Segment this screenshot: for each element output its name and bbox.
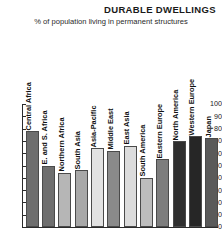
bar-category-label: Western Europe [188,78,195,135]
bar[interactable]: E. and S. Africa [42,166,55,228]
bar-slot: South Asia [73,104,89,227]
bar[interactable]: South America [140,178,153,227]
bar-category-label: North America [172,89,179,140]
chart-figure: DURABLE DWELLINGS % of population living… [0,0,222,245]
bar-slot: North America [171,104,187,227]
bar[interactable]: Western Europe [189,136,202,227]
bar-slot: South America [138,104,154,227]
bar-slot: E. and S. Africa [40,104,56,227]
bar-slot: Japan [204,104,220,227]
chart-title: DURABLE DWELLINGS [104,4,216,15]
bar[interactable]: North America [173,141,186,227]
bar[interactable]: South Asia [75,170,88,227]
bar-slot: Middle East [106,104,122,227]
bar-slot: Western Europe [187,104,203,227]
bar-category-label: Asia-Pacific [90,105,97,147]
bar[interactable]: East Asia [124,146,137,227]
bar-category-label: E. and S. Africa [41,111,48,165]
bar[interactable]: Middle East [107,151,120,227]
bar-category-label: Central Africa [25,82,32,130]
plot-area: 1009080706050403020100 Central AfricaE. … [0,30,222,245]
bar[interactable]: Northern Africa [58,173,71,227]
bar[interactable]: Asia-Pacific [91,148,104,227]
bar-category-label: East Asia [123,112,130,145]
bar-slot: Northern Africa [57,104,73,227]
bar-slot: Eastern Europe [155,104,171,227]
bar[interactable]: Central Africa [26,131,39,227]
bar[interactable]: Eastern Europe [156,159,169,227]
bar-series: Central AfricaE. and S. AfricaNorthern A… [24,104,220,227]
bar-slot: Central Africa [24,104,40,227]
bar-category-label: South America [139,125,146,177]
chart-subtitle: % of population living in permanent stru… [0,17,222,26]
bar-category-label: South Asia [74,131,81,169]
bar[interactable]: Japan [205,138,218,227]
x-axis-line [22,227,218,228]
bar-category-label: Japan [204,116,211,137]
bar-category-label: Middle East [106,109,113,150]
bar-category-label: Northern Africa [57,118,64,172]
bar-category-label: Eastern Europe [155,104,162,159]
bar-slot: Asia-Pacific [89,104,105,227]
bar-slot: East Asia [122,104,138,227]
